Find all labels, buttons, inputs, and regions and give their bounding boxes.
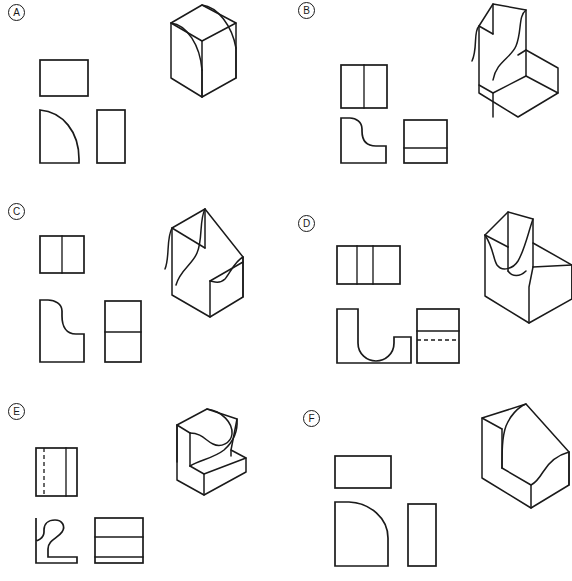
- view-f-top-view: [335, 456, 391, 488]
- view-e-front-view: [36, 518, 77, 563]
- view-d-top-view: [337, 246, 400, 284]
- problem-panel-d[interactable]: D: [286, 195, 572, 390]
- view-b-top-view: [341, 65, 387, 108]
- view-a-right-side-view: [97, 110, 125, 163]
- panel-d-figure: [286, 195, 572, 390]
- problem-panel-c[interactable]: C: [0, 195, 286, 390]
- problem-panel-e[interactable]: E: [0, 390, 286, 581]
- view-d-isometric: [485, 212, 572, 323]
- problem-panel-a[interactable]: A: [0, 0, 286, 195]
- view-a-isometric: [171, 5, 236, 97]
- problem-panel-b[interactable]: B: [286, 0, 572, 195]
- view-b-front-view: [341, 118, 386, 163]
- view-c-right-side-view: [105, 301, 141, 362]
- view-c-isometric: [165, 209, 243, 317]
- view-e-right-side-view: [95, 518, 143, 563]
- panel-c-figure: [0, 195, 286, 390]
- view-b-isometric: [472, 4, 558, 117]
- view-d-right-side-view: [417, 309, 459, 363]
- view-e-top-view: [36, 448, 77, 496]
- view-b-right-side-view: [404, 120, 447, 163]
- view-e-isometric: [177, 409, 246, 495]
- exercise-sheet: A: [0, 0, 572, 581]
- view-a-front-view: [40, 110, 79, 163]
- view-f-isometric: [482, 404, 569, 508]
- panel-b-figure: [286, 0, 572, 195]
- problem-panel-f[interactable]: F: [286, 390, 572, 581]
- view-c-top-view: [40, 236, 84, 273]
- view-f-right-side-view: [408, 504, 436, 566]
- panel-f-figure: [286, 390, 572, 581]
- view-f-front-view: [335, 502, 388, 566]
- panel-e-figure: [0, 390, 286, 581]
- panel-a-figure: [0, 0, 286, 195]
- view-d-front-view: [337, 309, 411, 363]
- view-c-front-view: [40, 300, 84, 362]
- view-a-top-view: [40, 60, 88, 96]
